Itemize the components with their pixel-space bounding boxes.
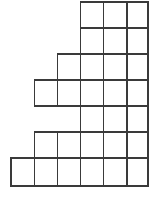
grid-cell xyxy=(127,106,148,132)
grid-cell xyxy=(127,158,148,186)
grid-cell xyxy=(57,158,80,186)
grid-cell xyxy=(34,132,57,158)
grid-cell xyxy=(81,158,104,186)
grid-cell xyxy=(81,132,104,158)
staircase-grid-figure xyxy=(0,0,155,203)
grid-cell xyxy=(104,28,127,54)
grid-cell xyxy=(127,2,148,28)
grid-cell xyxy=(104,80,127,106)
cell-group xyxy=(11,2,148,186)
grid-cell xyxy=(104,54,127,80)
grid-cell xyxy=(104,132,127,158)
grid-cell xyxy=(57,80,80,106)
grid-cell xyxy=(81,54,104,80)
grid-cell xyxy=(57,132,80,158)
grid-cell xyxy=(127,54,148,80)
grid-cell xyxy=(104,106,127,132)
grid-cell xyxy=(104,158,127,186)
grid-cell xyxy=(81,80,104,106)
grid-cell xyxy=(81,106,104,132)
grid-cell xyxy=(34,158,57,186)
grid-cell xyxy=(104,2,127,28)
grid-cell xyxy=(127,132,148,158)
grid-cell xyxy=(34,80,57,106)
grid-canvas xyxy=(0,0,155,203)
grid-cell xyxy=(127,28,148,54)
grid-cell xyxy=(127,80,148,106)
grid-cell xyxy=(81,28,104,54)
grid-cell xyxy=(57,54,80,80)
grid-cell xyxy=(11,158,34,186)
grid-cell xyxy=(81,2,104,28)
